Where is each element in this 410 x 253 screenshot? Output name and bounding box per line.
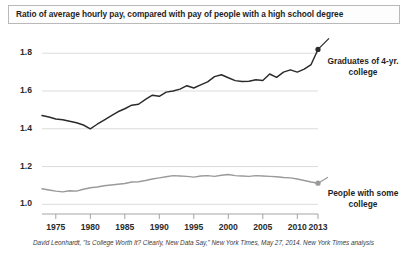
- y-tick-label: 1.2: [6, 161, 32, 171]
- annotation-some-college: People with some college: [320, 188, 406, 209]
- y-tick-label: 1.4: [6, 123, 32, 133]
- gridlines: [42, 53, 318, 204]
- plot-area: 1.01.21.41.61.8 197519801985199019952000…: [0, 0, 410, 253]
- x-tick-label: 1990: [142, 222, 176, 232]
- x-tick-label: 1980: [73, 222, 107, 232]
- y-tick-label: 1.0: [6, 198, 32, 208]
- x-tick-label: 2005: [246, 222, 280, 232]
- x-tick-label: 1975: [39, 222, 73, 232]
- y-tick-label: 1.6: [6, 85, 32, 95]
- plot-svg: [0, 0, 410, 253]
- x-tick-marks: [56, 214, 318, 219]
- source-caption: David Leonhardt, "Is College Worth It? C…: [33, 239, 374, 246]
- y-tick-label: 1.8: [6, 47, 32, 57]
- x-tick-label: 2013: [301, 222, 335, 232]
- chart-container: Ratio of average hourly pay, compared wi…: [0, 0, 410, 253]
- x-tick-label: 1995: [177, 222, 211, 232]
- x-tick-label: 2000: [211, 222, 245, 232]
- series-lines: [42, 49, 318, 191]
- x-tick-label: 1985: [108, 222, 142, 232]
- annotation-graduates: Graduates of 4-yr. college: [320, 56, 406, 77]
